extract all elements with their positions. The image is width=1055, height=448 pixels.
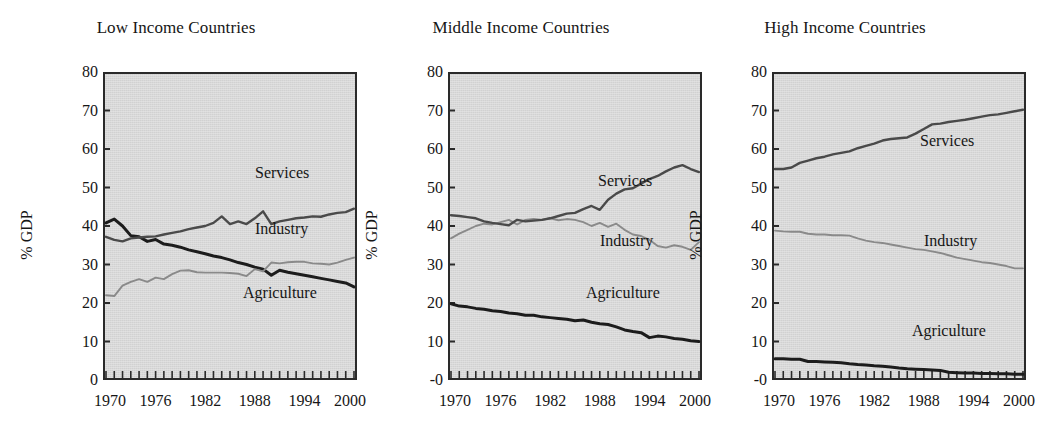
x-tick-label: 1976 bbox=[809, 392, 841, 410]
x-tick-label: 1970 bbox=[439, 392, 471, 410]
series-line-agriculture bbox=[451, 304, 699, 342]
y-tick-label: 20 bbox=[733, 295, 767, 311]
y-tick-labels: 01020304050607080 bbox=[60, 72, 98, 380]
x-tick-label: 1988 bbox=[239, 392, 271, 410]
y-tick-labels: -01020304050607080 bbox=[729, 72, 767, 380]
x-tick-label: 1994 bbox=[633, 392, 665, 410]
series-label-agriculture: Agriculture bbox=[586, 284, 660, 302]
chart-panel-1: Low Income Countries% GDP010203040506070… bbox=[0, 0, 352, 448]
series-line-industry bbox=[775, 231, 1023, 269]
y-tick-label: 50 bbox=[409, 180, 443, 196]
chart-panel-2: Middle Income Countries% GDP-01020304050… bbox=[345, 0, 697, 448]
y-tick-label: 70 bbox=[733, 103, 767, 119]
y-tick-label: 40 bbox=[409, 218, 443, 234]
y-tick-label: 70 bbox=[409, 103, 443, 119]
x-tick-label: 1970 bbox=[94, 392, 126, 410]
plot-svg bbox=[448, 72, 702, 380]
series-label-services: Services bbox=[598, 172, 652, 190]
plot-area: AgricultureIndustryServices bbox=[772, 72, 1026, 380]
y-axis-label: % GDP bbox=[687, 190, 705, 280]
x-tick-labels: 197019761982198819942000 bbox=[103, 392, 357, 416]
y-tick-label: 10 bbox=[64, 334, 98, 350]
y-tick-label: 20 bbox=[409, 295, 443, 311]
x-tick-label: 1988 bbox=[584, 392, 616, 410]
y-tick-label: 60 bbox=[733, 141, 767, 157]
x-tick-label: 1982 bbox=[534, 392, 566, 410]
y-tick-marks bbox=[103, 111, 110, 342]
series-label-industry: Industry bbox=[255, 220, 308, 238]
x-tick-labels: 197019761982198819942000 bbox=[772, 392, 1026, 416]
y-tick-label: 40 bbox=[733, 218, 767, 234]
plot-svg bbox=[772, 72, 1026, 380]
series-label-services: Services bbox=[920, 132, 974, 150]
y-axis-label: % GDP bbox=[18, 190, 36, 280]
x-tick-label: 1976 bbox=[140, 392, 172, 410]
y-tick-label: 70 bbox=[64, 103, 98, 119]
y-tick-labels: -01020304050607080 bbox=[405, 72, 443, 380]
x-tick-label: 2000 bbox=[1003, 392, 1035, 410]
x-tick-label: 1982 bbox=[189, 392, 221, 410]
multi-panel-chart-figure: Low Income Countries% GDP010203040506070… bbox=[0, 0, 1055, 448]
y-tick-label: 80 bbox=[64, 64, 98, 80]
y-tick-label: 60 bbox=[64, 141, 98, 157]
y-tick-label: 30 bbox=[409, 257, 443, 273]
x-tick-label: 1994 bbox=[957, 392, 989, 410]
panel-title: High Income Countries bbox=[669, 18, 1021, 38]
y-tick-label: 30 bbox=[733, 257, 767, 273]
y-tick-label: 40 bbox=[64, 218, 98, 234]
x-tick-marks bbox=[106, 371, 354, 380]
series-label-agriculture: Agriculture bbox=[243, 284, 317, 302]
y-tick-label: 80 bbox=[733, 64, 767, 80]
y-tick-label: -0 bbox=[409, 372, 443, 388]
y-tick-marks bbox=[772, 111, 779, 342]
y-tick-label: 20 bbox=[64, 295, 98, 311]
series-label-industry: Industry bbox=[600, 232, 653, 250]
y-tick-label: 80 bbox=[409, 64, 443, 80]
y-tick-label: 50 bbox=[64, 180, 98, 196]
plot-area: AgricultureIndustryServices bbox=[448, 72, 702, 380]
plot-area: AgricultureIndustryServices bbox=[103, 72, 357, 380]
x-tick-label: 1970 bbox=[763, 392, 795, 410]
x-tick-labels: 197019761982198819942000 bbox=[448, 392, 702, 416]
panel-title: Middle Income Countries bbox=[345, 18, 697, 38]
panel-title: Low Income Countries bbox=[0, 18, 352, 38]
series-line-services bbox=[451, 165, 699, 225]
x-tick-label: 1994 bbox=[288, 392, 320, 410]
y-axis-label: % GDP bbox=[363, 190, 381, 280]
x-tick-marks bbox=[451, 371, 699, 380]
x-tick-label: 1982 bbox=[858, 392, 890, 410]
x-tick-label: 1976 bbox=[485, 392, 517, 410]
x-tick-label: 1988 bbox=[908, 392, 940, 410]
series-line-services bbox=[106, 209, 354, 242]
y-tick-label: 10 bbox=[733, 334, 767, 350]
y-tick-label: 10 bbox=[409, 334, 443, 350]
series-label-services: Services bbox=[255, 164, 309, 182]
y-tick-label: 0 bbox=[64, 372, 98, 388]
series-label-agriculture: Agriculture bbox=[912, 322, 986, 340]
plot-svg bbox=[103, 72, 357, 380]
chart-panel-3: High Income Countries% GDP-0102030405060… bbox=[669, 0, 1021, 448]
y-tick-label: 60 bbox=[409, 141, 443, 157]
series-line-services bbox=[775, 110, 1023, 169]
y-tick-label: 50 bbox=[733, 180, 767, 196]
y-tick-label: 30 bbox=[64, 257, 98, 273]
series-label-industry: Industry bbox=[924, 232, 977, 250]
y-tick-label: -0 bbox=[733, 372, 767, 388]
y-tick-marks bbox=[448, 111, 455, 342]
series-line-agriculture bbox=[106, 219, 354, 287]
